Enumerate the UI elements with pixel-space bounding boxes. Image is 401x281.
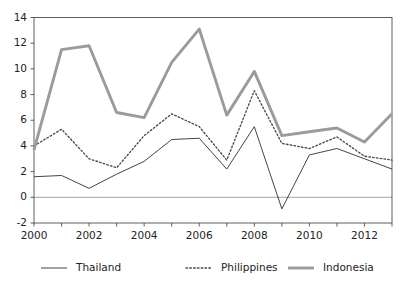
x-tick-label: 2008: [241, 229, 268, 241]
y-tick-label: -2: [17, 216, 27, 228]
x-tick-label: 2000: [21, 229, 48, 241]
legend-label-thailand: Thailand: [75, 261, 121, 273]
x-tick-label: 2010: [296, 229, 323, 241]
y-tick-label: 8: [20, 88, 27, 100]
y-tick-label: 2: [20, 165, 27, 177]
chart-canvas: -202468101214 20002002200420062008201020…: [0, 0, 401, 281]
y-tick-label: 0: [20, 190, 27, 202]
y-tick-label: 14: [14, 11, 28, 23]
y-tick-label: 4: [20, 139, 27, 151]
x-tick-label: 2006: [186, 229, 213, 241]
line-chart: -202468101214 20002002200420062008201020…: [0, 0, 401, 281]
y-tick-label: 12: [14, 36, 27, 48]
x-tick-label: 2002: [76, 229, 103, 241]
legend-label-philippines: Philippines: [221, 261, 278, 273]
y-tick-label: 6: [20, 113, 27, 125]
legend-label-indonesia: Indonesia: [323, 261, 374, 273]
x-tick-label: 2012: [351, 229, 378, 241]
y-tick-label: 10: [14, 62, 27, 74]
x-tick-label: 2004: [131, 229, 158, 241]
